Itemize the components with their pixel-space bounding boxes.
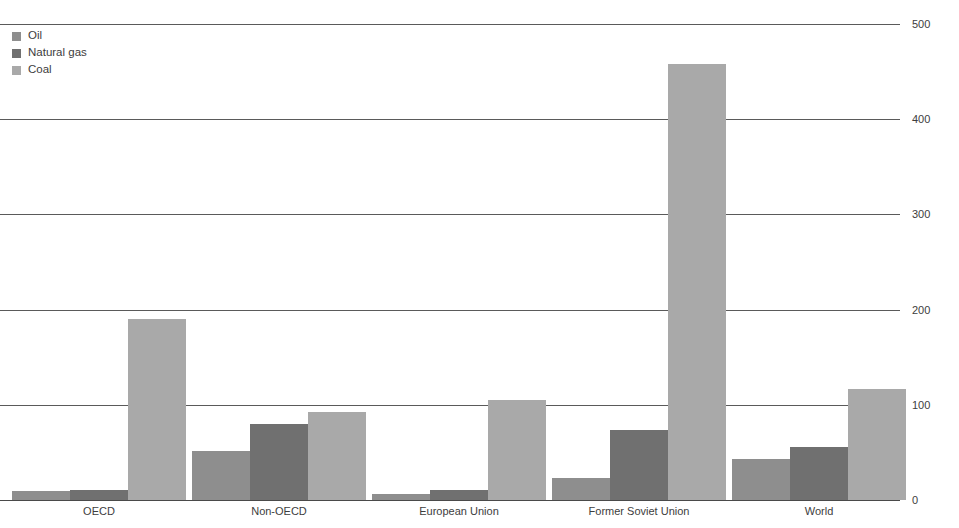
bar-non-oecd-natural-gas <box>250 424 308 500</box>
y-tick-label-300: 300 <box>912 209 930 220</box>
x-label-oecd: OECD <box>83 506 115 517</box>
bar-oecd-natural-gas <box>70 490 128 500</box>
y-tick-label-400: 400 <box>912 114 930 125</box>
y-tick-label-100: 100 <box>912 399 930 410</box>
bar-oecd-oil <box>12 491 70 500</box>
legend-item-oil[interactable]: Oil <box>12 28 87 44</box>
bar-oecd-coal <box>128 319 186 500</box>
x-label-world: World <box>805 506 834 517</box>
bar-former-soviet-union-oil <box>552 478 610 500</box>
x-label-non-oecd: Non-OECD <box>251 506 307 517</box>
bar-european-union-natural-gas <box>430 490 488 500</box>
x-label-former-soviet-union: Former Soviet Union <box>589 506 690 517</box>
bar-non-oecd-coal <box>308 412 366 500</box>
y-tick-label-0: 0 <box>912 495 918 506</box>
bars-layer <box>0 24 900 500</box>
bar-non-oecd-oil <box>192 451 250 501</box>
legend-swatch-icon <box>12 66 21 75</box>
bar-european-union-coal <box>488 400 546 500</box>
legend-item-natural-gas[interactable]: Natural gas <box>12 45 87 61</box>
legend-item-coal[interactable]: Coal <box>12 62 87 78</box>
bar-world-natural-gas <box>790 447 848 500</box>
y-tick-label-200: 200 <box>912 304 930 315</box>
bar-world-coal <box>848 389 906 500</box>
legend-label: Coal <box>28 64 52 76</box>
bar-former-soviet-union-natural-gas <box>610 430 668 500</box>
bar-former-soviet-union-coal <box>668 64 726 500</box>
bar-chart: 0100200300400500 OECDNon-OECDEuropean Un… <box>0 0 959 528</box>
x-label-european-union: European Union <box>419 506 499 517</box>
plot-area <box>0 24 900 500</box>
y-tick-label-500: 500 <box>912 19 930 30</box>
legend: OilNatural gasCoal <box>12 28 87 79</box>
legend-label: Oil <box>28 30 42 42</box>
bar-world-oil <box>732 459 790 500</box>
legend-label: Natural gas <box>28 47 87 59</box>
legend-swatch-icon <box>12 32 21 41</box>
gridline-0 <box>0 500 900 501</box>
bar-european-union-oil <box>372 494 430 500</box>
legend-swatch-icon <box>12 49 21 58</box>
